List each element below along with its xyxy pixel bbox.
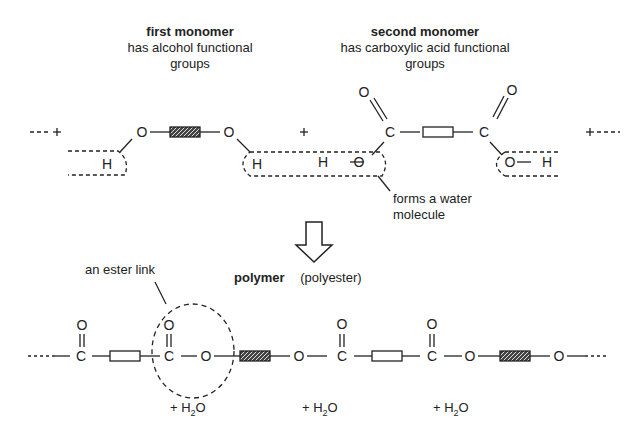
atom-h: H: [318, 155, 328, 169]
water-plus-h: + H: [433, 400, 454, 415]
atom-o: O: [164, 318, 175, 332]
atom-o: O: [505, 155, 516, 169]
atom-c: C: [385, 125, 395, 139]
atom-h: H: [542, 155, 552, 169]
water-o: O: [459, 400, 469, 415]
polymer-heading: polymer (polyester): [234, 270, 362, 286]
atom-h: H: [102, 157, 112, 171]
atom-c: C: [337, 349, 347, 363]
down-arrow-icon: [296, 222, 332, 262]
atom-o: O: [224, 125, 235, 139]
atom-c: C: [427, 349, 437, 363]
atom-o: O: [465, 349, 476, 363]
atom-c: C: [164, 349, 174, 363]
atom-h: H: [252, 157, 262, 171]
atom-o: O: [337, 317, 348, 331]
water-byproduct: + H2O: [433, 400, 469, 418]
water-annotation-line2: molecule: [393, 207, 472, 223]
atom-o: O: [201, 349, 212, 363]
atom-c: C: [76, 349, 86, 363]
polymer-subtitle: (polyester): [300, 270, 361, 285]
atom-o: O: [359, 85, 370, 99]
water-o: O: [328, 400, 338, 415]
atom-o: O: [507, 83, 518, 97]
reaction-diagram-graphics: [0, 0, 635, 444]
atom-o: O: [354, 155, 365, 169]
water-plus-h: + H: [170, 400, 191, 415]
water-annotation-line1: forms a water: [393, 191, 472, 207]
diol-spacer-block: [170, 127, 200, 137]
water-byproduct: + H2O: [170, 400, 206, 418]
ester-link-label: an ester link: [85, 262, 155, 278]
atom-o: O: [77, 318, 88, 332]
atom-o: O: [137, 125, 148, 139]
water-o: O: [196, 400, 206, 415]
water-byproduct: + H2O: [302, 400, 338, 418]
polymer-title: polymer: [234, 270, 285, 285]
diacid-spacer-block: [423, 127, 453, 137]
atom-o: O: [294, 349, 305, 363]
water-plus-h: + H: [302, 400, 323, 415]
atom-o: O: [427, 317, 438, 331]
atom-c: C: [479, 125, 489, 139]
water-annotation: forms a water molecule: [393, 191, 472, 223]
atom-o: O: [554, 349, 565, 363]
